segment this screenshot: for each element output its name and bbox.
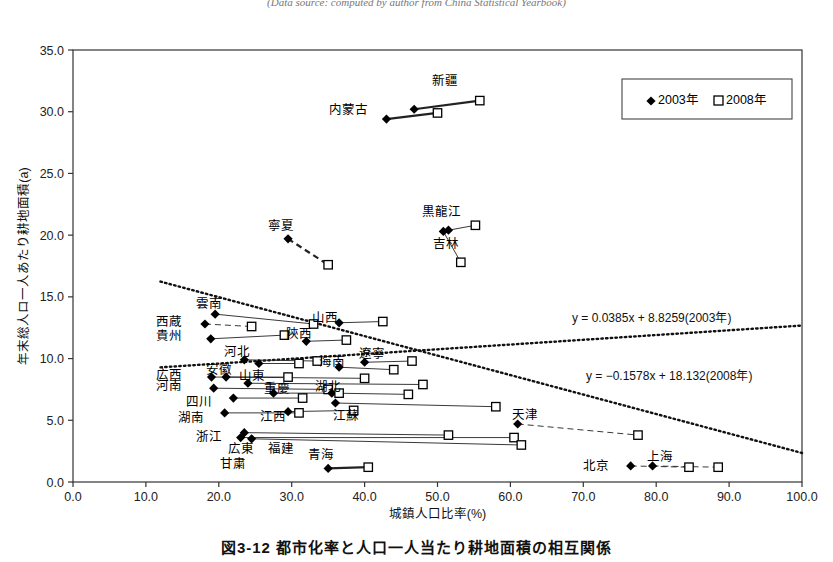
legend-label-2008: 2008年 bbox=[726, 93, 767, 107]
point-label-山西: 山西 bbox=[312, 311, 338, 325]
point-label-貴州: 貴州 bbox=[156, 329, 182, 343]
y-tick-label: 15.0 bbox=[40, 290, 64, 304]
point-label-西蔵: 西蔵 bbox=[156, 315, 182, 329]
chart-canvas: 0.05.010.015.020.025.030.035.00.010.020.… bbox=[0, 0, 833, 562]
x-tick-label: 30.0 bbox=[280, 490, 304, 504]
x-tick-label: 100.0 bbox=[786, 490, 817, 504]
marker-2008-湖南 bbox=[295, 409, 303, 417]
marker-2008-山東 bbox=[419, 380, 427, 388]
point-label-福建: 福建 bbox=[268, 441, 294, 456]
point-label-安徽: 安徽 bbox=[206, 362, 232, 377]
marker-2008-上海 bbox=[714, 463, 722, 471]
point-label-吉林: 吉林 bbox=[433, 237, 459, 251]
marker-2008-吉林 bbox=[457, 258, 465, 266]
marker-2008-福建 bbox=[517, 441, 525, 449]
legend-marker-2008 bbox=[714, 96, 723, 105]
y-tick-label: 35.0 bbox=[40, 44, 64, 58]
point-label-寧夏: 寧夏 bbox=[268, 218, 294, 233]
marker-2008-黒龍江 bbox=[471, 221, 479, 229]
marker-2008-新疆 bbox=[476, 96, 484, 104]
point-label-海南: 海南 bbox=[319, 354, 345, 369]
marker-2008-天津 bbox=[634, 431, 642, 439]
x-tick-label: 40.0 bbox=[352, 490, 376, 504]
legend-label-2003: 2003年 bbox=[658, 93, 699, 107]
x-axis-title: 城鎮人口比率(%) bbox=[389, 506, 486, 521]
marker-2008-陝西 bbox=[342, 336, 350, 344]
marker-2008-甘粛 bbox=[295, 359, 303, 367]
marker-2008-四川 bbox=[298, 394, 306, 402]
marker-2008-遼寧 bbox=[408, 357, 416, 365]
x-tick-label: 10.0 bbox=[134, 490, 158, 504]
marker-2008-広西 bbox=[284, 373, 292, 381]
point-label-河北: 河北 bbox=[224, 345, 250, 359]
point-label-天津: 天津 bbox=[512, 408, 538, 422]
equation-2003: y = 0.0385x + 8.8259(2003年) bbox=[572, 311, 731, 325]
marker-2008-安徽 bbox=[360, 374, 368, 382]
x-tick-label: 90.0 bbox=[717, 490, 741, 504]
marker-2008-海南 bbox=[390, 365, 398, 373]
y-tick-label: 20.0 bbox=[40, 229, 64, 243]
point-label-黒龍江: 黒龍江 bbox=[422, 204, 461, 219]
x-tick-label: 60.0 bbox=[498, 490, 522, 504]
point-label-湖北: 湖北 bbox=[315, 379, 341, 394]
point-label-浙江: 浙江 bbox=[196, 429, 222, 444]
connector-青海 bbox=[328, 467, 368, 468]
point-label-重慶: 重慶 bbox=[264, 381, 290, 396]
y-tick-label: 25.0 bbox=[40, 167, 64, 181]
scatter-plot-svg: 0.05.010.015.020.025.030.035.00.010.020.… bbox=[0, 0, 833, 562]
equation-2008: y = −0.1578x + 18.132(2008年) bbox=[586, 369, 752, 383]
point-label-雲南: 雲南 bbox=[196, 296, 222, 311]
point-label-北京: 北京 bbox=[583, 459, 609, 473]
marker-2008-西蔵 bbox=[247, 322, 255, 330]
point-label-江西: 江西 bbox=[260, 410, 286, 424]
x-tick-label: 50.0 bbox=[425, 490, 449, 504]
point-label-広東: 広東 bbox=[228, 442, 254, 456]
point-label-河南: 河南 bbox=[156, 378, 182, 393]
point-label-甘粛: 甘粛 bbox=[220, 457, 246, 471]
y-tick-label: 30.0 bbox=[40, 105, 64, 119]
x-tick-label: 70.0 bbox=[571, 490, 595, 504]
marker-2008-湖北 bbox=[404, 390, 412, 398]
marker-2008-青海 bbox=[364, 463, 372, 471]
y-tick-label: 5.0 bbox=[47, 414, 64, 428]
marker-2008-山西 bbox=[379, 317, 387, 325]
marker-2008-北京 bbox=[685, 463, 693, 471]
y-axis-title: 年末総人ロ一人あたり耕地面積(a) bbox=[16, 167, 31, 364]
x-tick-label: 80.0 bbox=[644, 490, 668, 504]
point-label-新疆: 新疆 bbox=[432, 73, 458, 88]
marker-2008-江蘇 bbox=[492, 403, 500, 411]
x-tick-label: 0.0 bbox=[64, 490, 81, 504]
point-label-陝西: 陝西 bbox=[286, 326, 312, 341]
y-tick-label: 10.0 bbox=[40, 352, 64, 366]
marker-2008-寧夏 bbox=[324, 261, 332, 269]
y-tick-label: 0.0 bbox=[47, 476, 64, 490]
point-label-上海: 上海 bbox=[647, 449, 673, 464]
marker-2008-浙江 bbox=[444, 431, 452, 439]
point-label-湖南: 湖南 bbox=[178, 410, 204, 425]
point-label-江蘇: 江蘇 bbox=[333, 409, 359, 423]
point-label-四川: 四川 bbox=[186, 395, 212, 409]
point-label-遼寧: 遼寧 bbox=[359, 346, 385, 361]
point-label-内蒙古: 内蒙古 bbox=[329, 102, 368, 117]
figure-caption: 図3-12 都市化率と人口一人当たり耕地面積の相互関係 bbox=[0, 536, 833, 562]
marker-2008-内蒙古 bbox=[433, 109, 441, 117]
point-label-青海: 青海 bbox=[308, 447, 334, 462]
point-label-山東: 山東 bbox=[239, 369, 265, 383]
x-tick-label: 20.0 bbox=[207, 490, 231, 504]
legend: 2003年2008年 bbox=[622, 79, 792, 119]
